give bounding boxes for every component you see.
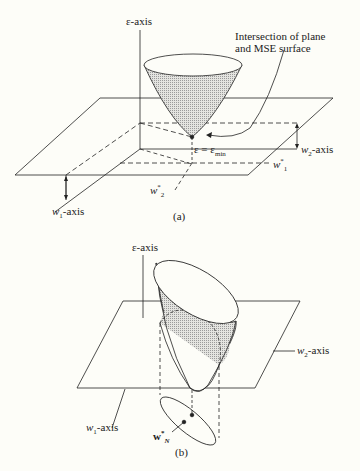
epsilon-axis-label-a: ε-axis [126,16,152,27]
wn-star-label: w*N [153,430,170,445]
w2-axis-label-b: w2-axis [297,345,329,359]
w1-axis-label-b: w1-axis [86,422,118,436]
figure-a-drawing [15,30,333,212]
diagram-svg [0,0,360,471]
epsilon-axis-label-b: ε-axis [132,242,158,253]
epsilon-min-label: ε = εmin [194,144,226,158]
caption-b: (b) [175,447,188,458]
annotation-line-2: and MSE surface [235,43,311,54]
annotation-line-1: Intersection of plane [235,31,325,42]
w2-axis-label-a: w2-axis [301,144,333,158]
paraboloid-rim-a [144,54,242,76]
w1-axis-label-a: w1-axis [52,206,84,220]
w1-star-label: w*1 [273,158,287,173]
figure-canvas: ε-axis Intersection of plane and MSE sur… [0,0,360,471]
caption-a: (a) [173,211,185,222]
w2-star-label: w*2 [150,184,164,199]
